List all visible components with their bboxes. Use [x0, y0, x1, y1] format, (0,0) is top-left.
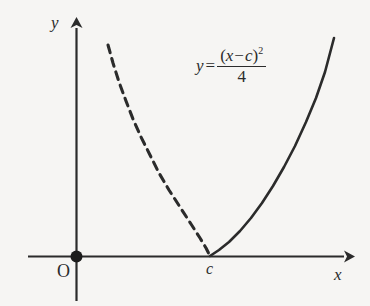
figure-canvas	[0, 0, 370, 306]
equation-fraction: (x−c)2 4	[217, 47, 266, 86]
equation-equals-sign: =	[205, 56, 218, 76]
numerator-constant-c: c	[245, 46, 253, 65]
x-axis-label: x	[334, 266, 342, 283]
y-axis-arrowhead	[71, 17, 83, 28]
numerator-minus-sign: −	[233, 46, 245, 65]
equation-numerator: (x−c)2	[217, 47, 266, 66]
y-axis-label: y	[51, 14, 59, 31]
numerator-exponent: 2	[258, 45, 263, 56]
parabola-figure: y x O c y = (x−c)2 4	[0, 0, 370, 306]
equation-denominator: 4	[234, 67, 249, 86]
origin-point-marker	[71, 251, 83, 263]
x-axis-tick-label-c: c	[206, 261, 213, 277]
x-axis-arrowhead	[344, 251, 355, 263]
parabola-left-branch-dashed	[108, 45, 210, 256]
equation-annotation: y = (x−c)2 4	[196, 47, 266, 86]
equation-lhs: y	[196, 56, 205, 76]
origin-label: O	[57, 262, 70, 280]
